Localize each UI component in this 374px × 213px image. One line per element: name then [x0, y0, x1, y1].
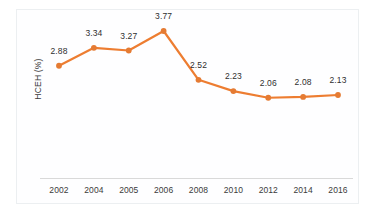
data-point-label: 2.06	[260, 78, 277, 88]
data-point-marker	[265, 95, 271, 101]
data-point-label: 2.08	[295, 77, 312, 87]
data-point-marker	[126, 48, 132, 54]
x-tick-label-2002: 2002	[49, 185, 68, 195]
data-point-label: 3.27	[120, 31, 137, 41]
data-point-label: 2.88	[51, 46, 68, 56]
data-point-marker	[335, 92, 341, 98]
data-point-label: 3.34	[85, 28, 102, 38]
data-point-label: 2.13	[330, 75, 347, 85]
data-point-marker	[161, 28, 167, 34]
data-point-marker	[56, 63, 62, 69]
data-point-label: 2.23	[225, 71, 242, 81]
data-point-marker	[196, 77, 202, 83]
x-tick-label-2010: 2010	[224, 185, 243, 195]
data-point-marker	[91, 45, 97, 51]
line-chart-figure: HCEH (%) 2.883.343.273.772.522.232.062.0…	[0, 0, 374, 213]
x-tick-label-2012: 2012	[259, 185, 278, 195]
x-tick-label-2004: 2004	[84, 185, 103, 195]
data-point-label: 3.77	[155, 11, 172, 21]
x-tick-label-2014: 2014	[293, 185, 312, 195]
x-tick-label-2008: 2008	[189, 185, 208, 195]
data-point-marker	[230, 88, 236, 94]
x-tick-label-2006: 2006	[154, 185, 173, 195]
x-tick-label-2016: 2016	[328, 185, 347, 195]
x-tick-label-2005: 2005	[119, 185, 138, 195]
data-point-marker	[300, 94, 306, 100]
chart-plot-svg	[0, 0, 374, 213]
data-point-label: 2.52	[190, 60, 207, 70]
